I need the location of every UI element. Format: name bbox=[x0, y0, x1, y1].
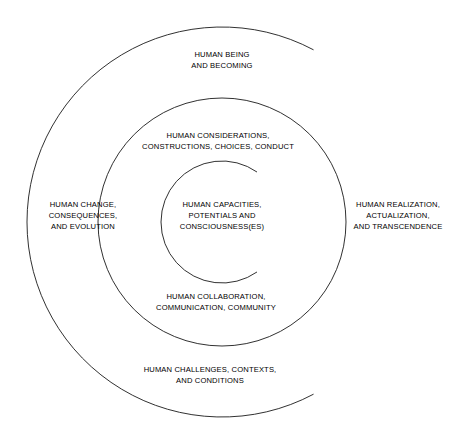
label-human-challenges: HUMAN CHALLENGES, CONTEXTS,AND CONDITION… bbox=[144, 364, 277, 386]
label-line: POTENTIALS AND bbox=[180, 210, 264, 221]
label-line: HUMAN CONSIDERATIONS, bbox=[142, 130, 294, 141]
label-line: HUMAN CHANGE, bbox=[49, 199, 118, 210]
label-line: AND BECOMING bbox=[191, 60, 252, 71]
label-line: HUMAN CAPACITIES, bbox=[180, 199, 264, 210]
label-line: HUMAN REALIZATION, bbox=[354, 199, 443, 210]
label-line: AND CONDITIONS bbox=[144, 375, 277, 386]
label-line: CONSCIOUSNESS(ES) bbox=[180, 222, 264, 233]
label-human-being-and-becoming: HUMAN BEINGAND BECOMING bbox=[191, 49, 252, 71]
label-line: COMMUNICATION, COMMUNITY bbox=[156, 302, 276, 313]
label-line: CONSTRUCTIONS, CHOICES, CONDUCT bbox=[142, 141, 294, 152]
concentric-rings-diagram: HUMAN BEINGAND BECOMING HUMAN CONSIDERAT… bbox=[0, 0, 472, 442]
label-line: HUMAN BEING bbox=[191, 49, 252, 60]
label-line: AND EVOLUTION bbox=[49, 222, 118, 233]
label-line: AND TRANSCENDENCE bbox=[354, 222, 443, 233]
label-human-realization: HUMAN REALIZATION,ACTUALIZATION,AND TRAN… bbox=[354, 199, 443, 233]
label-human-capacities: HUMAN CAPACITIES,POTENTIALS ANDCONSCIOUS… bbox=[180, 199, 264, 233]
label-human-considerations: HUMAN CONSIDERATIONS,CONSTRUCTIONS, CHOI… bbox=[142, 130, 294, 152]
label-line: CONSEQUENCES, bbox=[49, 210, 118, 221]
label-human-change: HUMAN CHANGE,CONSEQUENCES,AND EVOLUTION bbox=[49, 199, 118, 233]
label-human-collaboration: HUMAN COLLABORATION,COMMUNICATION, COMMU… bbox=[156, 291, 276, 313]
label-line: ACTUALIZATION, bbox=[354, 210, 443, 221]
label-line: HUMAN CHALLENGES, CONTEXTS, bbox=[144, 364, 277, 375]
label-line: HUMAN COLLABORATION, bbox=[156, 291, 276, 302]
